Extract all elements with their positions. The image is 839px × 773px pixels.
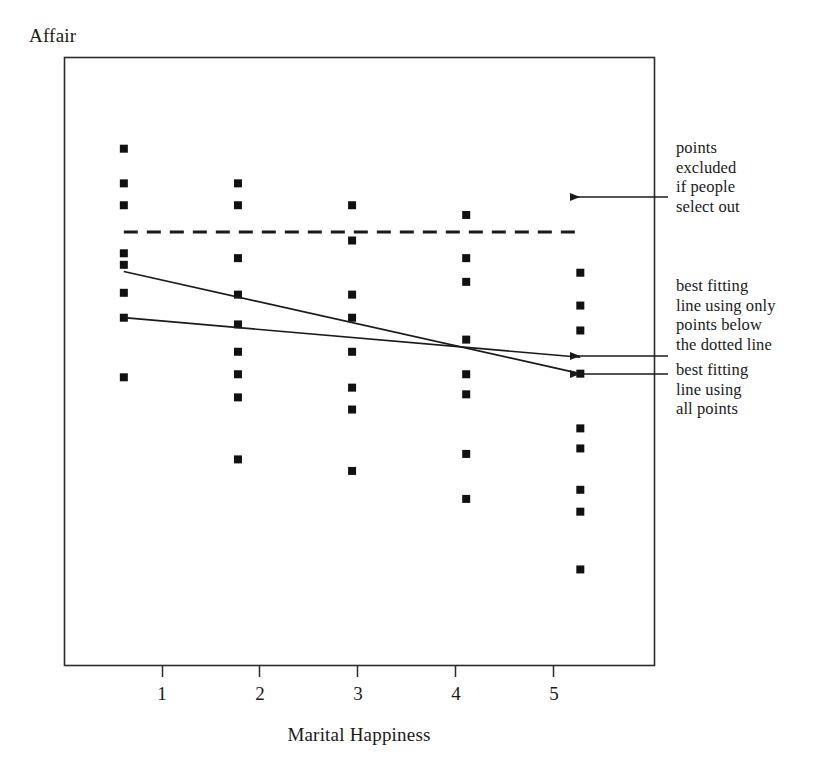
data-point <box>576 565 584 573</box>
data-point <box>576 486 584 494</box>
data-point <box>120 145 128 153</box>
scatter-plot-figure: Affair 1 2 3 4 <box>0 0 839 773</box>
data-point <box>348 291 356 299</box>
data-point <box>462 278 470 286</box>
data-point <box>348 237 356 245</box>
data-point <box>120 179 128 187</box>
data-point <box>234 348 242 356</box>
data-point <box>462 336 470 344</box>
data-point <box>348 406 356 414</box>
data-point <box>234 370 242 378</box>
data-point <box>576 302 584 310</box>
data-point <box>462 450 470 458</box>
data-point <box>576 444 584 452</box>
data-point <box>120 261 128 269</box>
data-point <box>348 201 356 209</box>
annotation-arrows <box>570 197 668 374</box>
data-point <box>462 370 470 378</box>
data-point <box>234 254 242 262</box>
x-axis-label: Marital Happiness <box>64 724 654 746</box>
data-point <box>576 269 584 277</box>
data-point <box>462 211 470 219</box>
data-point <box>234 455 242 463</box>
data-point <box>234 393 242 401</box>
plot-frame <box>65 58 655 666</box>
data-point <box>348 314 356 322</box>
data-point <box>576 326 584 334</box>
data-point <box>120 249 128 257</box>
annotation-excluded-points: points excluded if people select out <box>676 138 740 216</box>
x-tick-label-4: 4 <box>436 683 476 705</box>
data-point <box>234 201 242 209</box>
data-point <box>348 384 356 392</box>
data-point <box>120 201 128 209</box>
x-axis-ticks <box>163 665 554 677</box>
x-tick-label-5: 5 <box>534 683 574 705</box>
data-point <box>576 424 584 432</box>
x-tick-label-3: 3 <box>338 683 378 705</box>
data-point <box>120 373 128 381</box>
data-point <box>348 348 356 356</box>
data-point <box>348 467 356 475</box>
data-point <box>462 390 470 398</box>
data-point <box>462 495 470 503</box>
data-point <box>234 179 242 187</box>
data-point <box>120 289 128 297</box>
annotation-fit-below-dotted: best fitting line using only points belo… <box>676 276 776 354</box>
annotation-fit-all-points: best fitting line using all points <box>676 360 748 419</box>
data-point <box>576 508 584 516</box>
data-point <box>462 254 470 262</box>
fit-line-all-points <box>124 272 580 374</box>
x-tick-label-2: 2 <box>240 683 280 705</box>
x-tick-label-1: 1 <box>142 683 182 705</box>
